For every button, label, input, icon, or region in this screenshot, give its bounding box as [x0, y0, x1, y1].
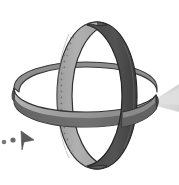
rings-illustration-svg [0, 0, 179, 185]
illustration-canvas: Grayscale 3D drawing of a vertical ring … [0, 0, 179, 185]
cursor-arrow-icon[interactable] [21, 131, 34, 150]
vertical-ring-front [87, 22, 137, 169]
mouse-cursor-group[interactable] [2, 131, 34, 150]
vertical-ring-back [57, 22, 107, 169]
cursor-trail-dot-far [2, 140, 7, 145]
cursor-trail-dot-near [10, 137, 15, 142]
